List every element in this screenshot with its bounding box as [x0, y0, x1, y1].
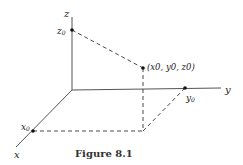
coordinate-diagram: z y x z0 y0 x0 (x0, y0, z0) Figure 8.1 [0, 0, 243, 165]
z0-point [70, 28, 74, 32]
y0-point [183, 86, 187, 90]
z-axis-label: z [63, 8, 70, 19]
point-coordinates-label: (x0, y0, z0) [147, 62, 195, 72]
x-axis-label: x [14, 149, 20, 160]
dash-base-to-y0 [143, 88, 185, 131]
xyz0-point [141, 66, 145, 70]
y-axis-label: y [224, 84, 231, 95]
x0-label: x0 [21, 122, 30, 132]
dash-z0-to-point [72, 30, 143, 68]
x-axis [16, 90, 72, 147]
y-axis [72, 88, 221, 90]
z0-label: z0 [56, 26, 66, 36]
figure-caption: Figure 8.1 [75, 148, 133, 159]
x0-point [31, 129, 35, 133]
y0-label: y0 [185, 93, 195, 103]
